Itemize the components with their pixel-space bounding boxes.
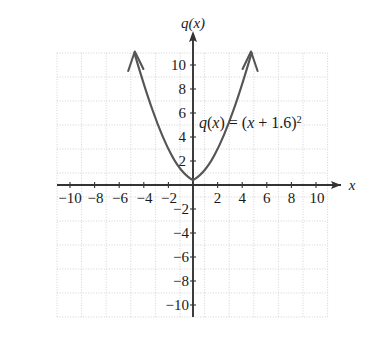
- eq-plus-term: + 1.6): [254, 114, 296, 132]
- eq-exponent: 2: [297, 114, 302, 125]
- eq-fn-name: q: [199, 114, 207, 132]
- y-tick-label: 4: [179, 129, 187, 145]
- coordinate-plane-svg: −10 −8 −6 −4 −2 2 4 6 8 10 10 8: [0, 0, 385, 348]
- y-tick-label: −2: [173, 201, 189, 217]
- function-equation-annotation: q(x) = (x + 1.6)2: [199, 114, 302, 132]
- y-tick-label: −6: [173, 249, 189, 265]
- x-tick-label: −6: [112, 190, 128, 206]
- y-tick-label: −4: [173, 225, 189, 241]
- y-tick-label: 8: [179, 81, 187, 97]
- eq-var2: x: [246, 114, 254, 131]
- graph-figure: −10 −8 −6 −4 −2 2 4 6 8 10 10 8: [0, 0, 385, 348]
- y-tick-label: 10: [171, 57, 186, 73]
- y-tick-label: −10: [166, 297, 189, 313]
- y-tick-label: −8: [173, 273, 189, 289]
- x-tick-label: 10: [310, 190, 325, 206]
- x-tick-label: −4: [137, 190, 153, 206]
- y-axis-label: q(x): [181, 15, 205, 32]
- x-axis-label: x: [348, 177, 356, 193]
- eq-var: x: [211, 114, 219, 131]
- x-tick-label: −10: [58, 190, 81, 206]
- x-tick-label: 8: [288, 190, 296, 206]
- x-tick-label: 6: [263, 190, 271, 206]
- eq-equals: = (: [225, 114, 247, 132]
- x-tick-label: 2: [214, 190, 222, 206]
- y-tick-label: 6: [179, 105, 187, 121]
- function-equation-text: q(x) = (x + 1.6)2: [199, 114, 302, 132]
- x-tick-label: 4: [238, 190, 246, 206]
- x-tick-label: −8: [88, 190, 104, 206]
